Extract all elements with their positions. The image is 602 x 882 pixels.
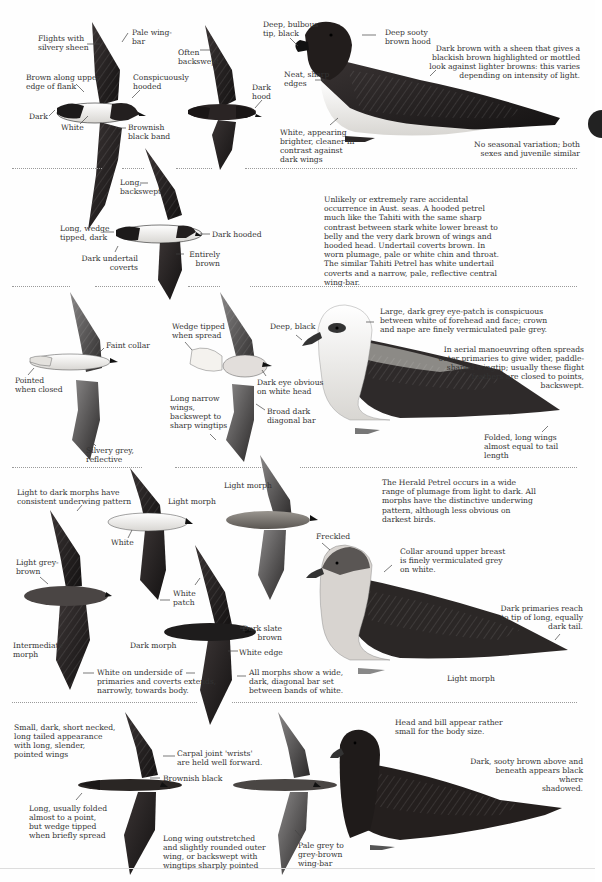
herald-petrel-description: The Herald Petrel occurs in a wide range… (382, 478, 537, 524)
label-consistent-pattern: Light to dark morphs have consistent und… (17, 488, 131, 506)
label-all-morphs: All morphs show a wide, dark, diagonal b… (249, 668, 343, 695)
label-entirely-brown: Entirely brown (178, 250, 220, 268)
label-neat-edges: Neat, sharp edges (284, 70, 329, 88)
label-flights-silvery: Flights with silvery sheen (38, 34, 89, 52)
label-white-edge: White edge (239, 648, 283, 657)
label-dark-hood: Dark hood (252, 83, 271, 101)
label-dark-hooded: Dark hooded (212, 230, 262, 239)
label-sheen: Dark brown with a sheen that gives a bla… (410, 44, 580, 80)
label-bill-bulbous: Deep, bulbous tip, black (263, 20, 318, 38)
label-dark-morph: Dark morph (130, 641, 176, 650)
label-white: White (61, 123, 84, 132)
bird-flight-herald-light-b (226, 455, 318, 600)
section-divider (12, 168, 102, 169)
label-white-belly: White, appearing brighter, cleaner in co… (280, 128, 354, 164)
label-silvery-grey: Silvery grey, reflective (86, 446, 134, 464)
label-brown-upper-flank: Brown along upper edge of flank (26, 73, 100, 91)
label-dark-eye: Dark eye obvious on white head (257, 378, 323, 396)
label-dark: Dark (29, 112, 48, 121)
section-divider (12, 286, 70, 287)
label-wedge-tipped: Long, wedge tipped, dark (60, 224, 109, 242)
bird-flight-hooded-b (188, 25, 262, 170)
label-pale-wing-bar: Pale wing- bar (132, 28, 172, 46)
label-eye-patch: Large, dark grey eye-patch is conspicuou… (380, 307, 547, 334)
label-long-wing: Long wing outstretched and slightly roun… (163, 834, 266, 870)
label-pale-grey-bar: Pale grey to grey-brown wing-bar (298, 841, 344, 868)
bird-flight-herald-intermediate (24, 510, 112, 690)
label-long-narrow-wings: Long narrow wings, backswept to sharp wi… (170, 394, 227, 430)
beck-petrel-description: Unlikely or extremely rare accidental oc… (324, 195, 506, 287)
label-head-bill: Head and bill appear rather small for th… (395, 718, 503, 736)
label-light-grey-brown: Light grey- brown (16, 558, 59, 576)
label-brownish-black: Brownish black (163, 774, 222, 783)
section-divider (300, 467, 577, 468)
label-freckled: Freckled (316, 532, 350, 541)
label-often-backswept: Often backswept (178, 48, 219, 66)
label-pointed-closed: Pointed when closed (15, 376, 63, 394)
label-bill-deep-black: Deep, black (270, 322, 315, 331)
label-dark-primaries: Dark primaries reach to tip of long, equ… (470, 604, 583, 631)
label-sooty-brown: Dark, sooty brown above and beneath appe… (470, 757, 583, 793)
bird-flight-beck (116, 148, 202, 300)
label-light-morph-perched: Light morph (447, 674, 495, 683)
label-long-backswept: Long, backswept (120, 178, 161, 196)
label-white-underside: White on underside of primaries and cove… (97, 668, 216, 695)
section-divider (175, 467, 263, 468)
label-wedge-spread: Wedge tipped when spread (172, 322, 225, 340)
label-light-morph-b: Light morph (224, 481, 272, 490)
section-divider (95, 286, 155, 287)
section-divider (12, 467, 142, 468)
page-bottom-edge (0, 868, 595, 869)
label-folded-wings: Folded, long wings almost equal to tail … (484, 433, 558, 460)
label-faint-collar: Faint collar (106, 341, 150, 350)
label-small-dark: Small, dark, short necked, long tailed a… (14, 723, 116, 759)
label-dark-slate-brown: Dark slate brown (240, 624, 282, 642)
label-light-morph-a: Light morph (168, 497, 216, 506)
label-manoeuvring: In aerial manoeuvring often spreads oute… (420, 345, 584, 390)
section-divider (12, 702, 197, 703)
bird-flight-whiteheaded-b (190, 292, 272, 462)
section-divider (232, 702, 577, 703)
label-intermediate-morph: Intermediate morph (13, 641, 63, 659)
section-divider (188, 286, 220, 287)
label-conspicuously-hooded: Conspicuously hooded (133, 73, 189, 91)
section-divider (122, 168, 144, 169)
label-dark-undertail: Dark undertail coverts (78, 254, 138, 272)
label-long-folded: Long, usually folded almost to a point, … (29, 804, 107, 840)
section-divider (176, 168, 212, 169)
label-carpal-joint: Carpal joint 'wrists' are held well forw… (177, 749, 262, 767)
label-collar: Collar around upper breast is finely ver… (400, 547, 505, 574)
label-white: White (111, 538, 134, 547)
label-broad-bar: Broad dark diagonal bar (267, 407, 316, 425)
label-seasonal: No seasonal variation; both sexes and ju… (440, 140, 580, 158)
section-divider (245, 168, 577, 169)
label-white-patch: White patch (173, 589, 196, 607)
label-brownish-black-band: Brownish black band (128, 123, 170, 141)
